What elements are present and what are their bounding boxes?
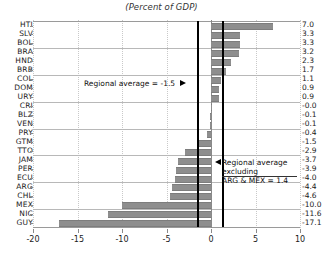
- value-label-nic: -11.6: [302, 210, 323, 218]
- category-label-cri: CRI: [3, 102, 33, 110]
- annotation-excl-line-3: ARG & MEX = 1.4: [222, 176, 288, 185]
- category-label-bol: BOL: [3, 39, 33, 47]
- horizontal-gridline: [33, 155, 300, 156]
- x-tick-label: -20: [18, 235, 48, 244]
- bar: [207, 131, 211, 138]
- value-label-gtm: -1.5: [302, 138, 323, 146]
- category-label-chl: CHL: [3, 192, 33, 200]
- reference-line-regional-average: [197, 21, 199, 227]
- value-label-brb: 1.7: [302, 66, 323, 74]
- x-tick: [256, 229, 257, 233]
- horizontal-gridline: [33, 75, 300, 76]
- plot-frame-line: [33, 21, 300, 22]
- value-label-guy: -17.1: [302, 219, 323, 227]
- plot-area: [33, 20, 300, 230]
- value-label-ecu: -4.0: [302, 174, 323, 182]
- category-label-per: PER: [3, 165, 33, 173]
- horizontal-gridline: [33, 102, 300, 103]
- category-label-hnd: HND: [3, 57, 33, 65]
- value-label-cri: -0.0: [302, 102, 323, 110]
- category-label-hti: HTI: [3, 21, 33, 29]
- category-label-pry: PRY: [3, 129, 33, 137]
- bar: [211, 32, 240, 39]
- category-axis: HTISLVBOLBRAHNDBRBCOLDOMURYCRIBLZVENPRYG…: [0, 20, 33, 230]
- x-tick-label: -5: [152, 235, 182, 244]
- value-label-col: 1.1: [302, 75, 323, 83]
- annotation-regional-average: Regional average = -1.5: [84, 79, 175, 88]
- value-label-chl: -4.6: [302, 192, 323, 200]
- chart-figure: (Percent of GDP) HTISLVBOLBRAHNDBRBCOLDO…: [0, 0, 323, 258]
- bar: [211, 95, 219, 102]
- category-label-col: COL: [3, 75, 33, 83]
- vertical-gridline: [78, 20, 80, 228]
- x-axis: -20-15-10-50510: [33, 229, 300, 255]
- x-tick-label: 5: [241, 235, 271, 244]
- category-label-guy: GUY: [3, 219, 33, 227]
- bar: [210, 113, 211, 120]
- bar: [211, 86, 219, 93]
- bar: [198, 140, 211, 147]
- bar: [211, 50, 239, 57]
- vertical-gridline: [256, 20, 258, 228]
- bar: [211, 104, 212, 111]
- value-label-per: -3.9: [302, 165, 323, 173]
- x-tick: [33, 229, 34, 233]
- bar: [175, 176, 211, 183]
- bar: [211, 41, 240, 48]
- value-label-bol: 3.3: [302, 39, 323, 47]
- category-label-ecu: ECU: [3, 174, 33, 182]
- category-label-ven: VEN: [3, 120, 33, 128]
- bar: [211, 59, 231, 66]
- value-label-ury: 0.9: [302, 93, 323, 101]
- category-label-bra: BRA: [3, 48, 33, 56]
- annotation-excl-line-1: Regional average: [222, 158, 288, 167]
- bar: [170, 193, 211, 200]
- category-label-arg: ARG: [3, 183, 33, 191]
- value-label-pry: -0.4: [302, 129, 323, 137]
- value-label-bra: 3.2: [302, 48, 323, 56]
- vertical-gridline: [167, 20, 169, 228]
- annotation-excl-underline: [222, 176, 297, 177]
- category-label-mex: MEX: [3, 201, 33, 209]
- category-label-brb: BRB: [3, 66, 33, 74]
- bar: [210, 122, 211, 129]
- x-tick-label: 10: [285, 235, 315, 244]
- x-tick: [122, 229, 123, 233]
- category-label-nic: NIC: [3, 210, 33, 218]
- category-label-gtm: GTM: [3, 138, 33, 146]
- value-label-jam: -3.7: [302, 156, 323, 164]
- value-label-blz: -0.1: [302, 111, 323, 119]
- category-label-jam: JAM: [3, 156, 33, 164]
- vertical-gridline: [122, 20, 124, 228]
- bar: [211, 77, 221, 84]
- annotation-regional-average-arrow-icon: [180, 80, 186, 86]
- bar: [172, 184, 211, 191]
- category-label-tto: TTO: [3, 147, 33, 155]
- horizontal-gridline: [33, 48, 300, 49]
- annotation-excl-line-2: excluding: [222, 167, 288, 176]
- annotation-regional-average-excluding: Regional average excluding ARG & MEX = 1…: [222, 158, 288, 185]
- value-label-arg: -4.4: [302, 183, 323, 191]
- x-tick: [167, 229, 168, 233]
- value-label-column: 7.03.33.33.22.31.71.10.90.9-0.0-0.1-0.1-…: [300, 20, 323, 230]
- bar: [59, 220, 211, 227]
- category-label-dom: DOM: [3, 84, 33, 92]
- chart-title: (Percent of GDP): [0, 2, 323, 12]
- annotation-excluding-arrow-icon: [215, 159, 221, 165]
- category-label-blz: BLZ: [3, 111, 33, 119]
- x-tick-label: -10: [107, 235, 137, 244]
- x-tick: [300, 229, 301, 233]
- x-tick-label: 0: [196, 235, 226, 244]
- bar: [211, 23, 273, 30]
- value-label-mex: -10.0: [302, 201, 323, 209]
- x-tick: [78, 229, 79, 233]
- value-label-hti: 7.0: [302, 21, 323, 29]
- category-label-ury: URY: [3, 93, 33, 101]
- value-label-ven: -0.1: [302, 120, 323, 128]
- value-label-tto: -2.9: [302, 147, 323, 155]
- value-label-slv: 3.3: [302, 30, 323, 38]
- category-label-slv: SLV: [3, 30, 33, 38]
- value-label-hnd: 2.3: [302, 57, 323, 65]
- value-label-dom: 0.9: [302, 84, 323, 92]
- reference-line-regional-average-excluding-arg-mex: [222, 21, 224, 227]
